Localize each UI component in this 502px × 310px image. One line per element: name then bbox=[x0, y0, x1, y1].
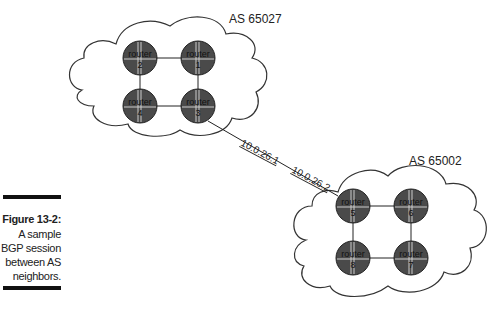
local-ip-label: 10.0.26.1 bbox=[239, 137, 281, 166]
router-6: router 6 bbox=[394, 189, 428, 223]
router-number: 4 bbox=[137, 108, 142, 118]
router-number: 8 bbox=[350, 260, 355, 270]
router-number: 6 bbox=[408, 208, 413, 218]
router-label: router bbox=[341, 197, 365, 207]
router-label: router bbox=[186, 97, 210, 107]
router-1: router 1 bbox=[181, 41, 215, 75]
bgp-diagram: 10.0.26.1 10.0.26.2 AS 65027 AS 65002 ro… bbox=[0, 0, 502, 310]
router-number: 5 bbox=[350, 208, 355, 218]
caption-top-bar bbox=[3, 195, 61, 199]
remote-ip-label: 10.0.26.2 bbox=[290, 164, 332, 193]
router-number: 7 bbox=[408, 260, 413, 270]
as-label-65027: AS 65027 bbox=[229, 12, 282, 26]
router-label: router bbox=[186, 49, 210, 59]
router-5: router 5 bbox=[336, 189, 370, 223]
caption-line-2: BGP session bbox=[1, 242, 61, 254]
router-label: router bbox=[399, 249, 423, 259]
router-8: router 8 bbox=[336, 241, 370, 275]
router-7: router 7 bbox=[394, 241, 428, 275]
router-2: router 2 bbox=[123, 41, 157, 75]
router-number: 3 bbox=[195, 108, 200, 118]
router-label: router bbox=[399, 197, 423, 207]
router-number: 1 bbox=[195, 60, 200, 70]
router-3: router 3 bbox=[181, 89, 215, 123]
router-number: 2 bbox=[137, 60, 142, 70]
cloud-as-65027 bbox=[70, 17, 267, 136]
router-label: router bbox=[128, 49, 152, 59]
caption-line-1: A sample bbox=[18, 228, 61, 240]
caption-bottom-bar bbox=[3, 286, 61, 290]
as-label-65002: AS 65002 bbox=[409, 154, 462, 168]
router-label: router bbox=[128, 97, 152, 107]
router-4: router 4 bbox=[123, 89, 157, 123]
router-label: router bbox=[341, 249, 365, 259]
caption-line-4: neighbors. bbox=[13, 270, 61, 282]
caption-line-3: between AS bbox=[5, 256, 61, 268]
figure-number: Figure 13-2: bbox=[2, 213, 61, 225]
